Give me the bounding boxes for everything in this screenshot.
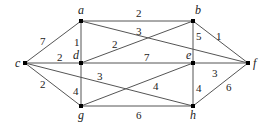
edge-weight-g-h: 6 xyxy=(136,109,142,121)
edge-weight-a-d: 1 xyxy=(74,36,80,48)
edge-b-f xyxy=(193,21,248,63)
edge-weight-a-b: 2 xyxy=(136,7,142,19)
edge-weight-c-a: 7 xyxy=(40,35,46,47)
node-a xyxy=(79,19,83,23)
node-label-c: c xyxy=(15,56,21,70)
edge-weight-d-e: 7 xyxy=(144,51,150,63)
edge-weight-e-h: 4 xyxy=(196,82,202,94)
edge-weight-d-b: 2 xyxy=(112,38,118,50)
edge-weight-c-d: 2 xyxy=(57,51,63,63)
edge-weight-g-e: 4 xyxy=(153,80,159,92)
edge-a-f xyxy=(81,21,248,63)
edge-weight-h-f: 6 xyxy=(226,81,232,93)
edge-weight-d-g: 4 xyxy=(73,85,79,97)
node-label-h: h xyxy=(190,108,196,122)
node-c xyxy=(23,61,27,65)
node-label-d: d xyxy=(73,48,80,62)
edge-weights-layer: 72212327451344366 xyxy=(40,7,232,121)
node-f xyxy=(246,61,250,65)
node-label-f: f xyxy=(253,56,258,70)
weighted-graph-diagram: 72212327451344366 abcdefgh xyxy=(0,0,272,131)
node-d xyxy=(79,61,83,65)
edge-weight-c-g: 2 xyxy=(40,78,46,90)
node-e xyxy=(191,61,195,65)
edge-weight-a-f: 3 xyxy=(136,25,142,37)
edge-weight-b-e: 5 xyxy=(196,30,202,42)
node-b xyxy=(191,19,195,23)
graph-canvas: 72212327451344366 abcdefgh xyxy=(0,0,272,131)
edge-weight-b-f: 1 xyxy=(216,30,222,42)
edge-weight-e-f: 3 xyxy=(212,67,218,79)
node-label-g: g xyxy=(78,108,84,122)
edge-weight-c-h: 3 xyxy=(97,70,103,82)
node-label-e: e xyxy=(186,48,192,62)
node-label-b: b xyxy=(195,3,201,17)
edge-c-h xyxy=(25,63,193,106)
node-label-a: a xyxy=(78,3,84,17)
